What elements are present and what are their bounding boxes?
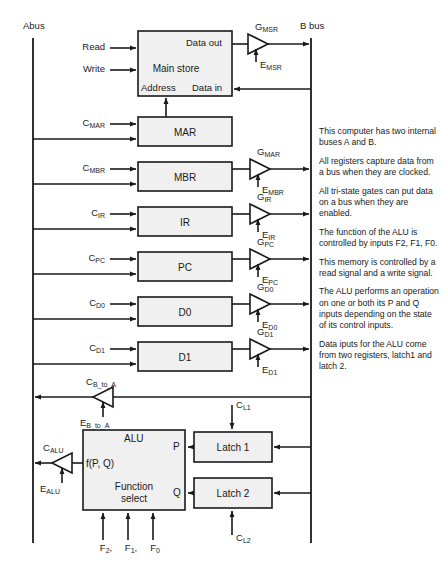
- note-item: The ALU performs an operation on one or …: [319, 286, 439, 331]
- alu-function-input-f1: F1,: [125, 543, 137, 553]
- main-store-write-label: Write: [83, 64, 105, 74]
- gate-ir-control-sub: IR: [264, 196, 271, 203]
- gate-pc: [250, 249, 270, 269]
- gate-alu-control-letter: C: [43, 442, 50, 453]
- gate-msr: [248, 34, 268, 54]
- clock-label-mbr: CMBR: [83, 163, 105, 173]
- f1-trail: ,: [135, 542, 138, 553]
- latch-2-clock-letter: C: [236, 532, 243, 543]
- alu-name-label: ALU: [124, 434, 143, 445]
- clock-label-mar: CMAR: [83, 118, 105, 128]
- gate-ir: [250, 204, 270, 224]
- gate-b-to-a-control-label: CB_to_A: [86, 377, 116, 387]
- gate-b-to-a-control-letter: C: [86, 376, 93, 387]
- main-store-read-label: Read: [82, 42, 105, 52]
- note-item: The function of the ALU is controlled by…: [319, 227, 439, 249]
- latch-1-clock-label: CL1: [236, 400, 251, 410]
- gate-b-to-a-enable-sub: B_to_A: [86, 422, 109, 429]
- gate-b-to-a-enable-label: EB_to_A: [80, 418, 109, 428]
- gate-mbr-control-sub: MAR: [264, 151, 280, 158]
- main-store-address-label: Address: [141, 83, 176, 93]
- note-item: This memory is controlled by a read sign…: [319, 257, 439, 279]
- gate-pc-control-sub: PC: [264, 241, 274, 248]
- clock-letter-mar: C: [83, 117, 90, 128]
- f2-trail: ,: [110, 542, 113, 553]
- gate-alu-enable-label: EALU: [40, 484, 60, 494]
- main-store-data-in-label: Data in: [192, 83, 222, 93]
- a-bus-label: Abus: [23, 21, 45, 31]
- gate-pc-control-label: GPC: [257, 237, 274, 247]
- f1-sub: 1: [131, 547, 135, 554]
- main-store-name: Main store: [153, 63, 200, 74]
- clock-letter-mbr: C: [83, 162, 90, 173]
- clock-sub-ir: IR: [98, 212, 105, 219]
- gate-d1-enable-sub: D1: [268, 369, 277, 376]
- gate-d0-control-label: GD0: [257, 282, 273, 292]
- latch-2-label: Latch 2: [217, 488, 250, 499]
- f1-letter: F: [125, 542, 131, 553]
- f2-letter: F: [100, 542, 106, 553]
- diagram-canvas: Abus B bus Main store Data out Data in A…: [0, 0, 443, 565]
- gate-b-to-a-control-sub: B_to_A: [93, 381, 116, 388]
- f0-sub: 0: [156, 547, 160, 554]
- note-item: All tri-state gates can put data on a bu…: [319, 186, 439, 220]
- note-item: Data iputs for the ALU come from two reg…: [319, 339, 439, 373]
- f0-letter: F: [150, 542, 156, 553]
- f2-sub: 2: [106, 547, 110, 554]
- latch-1-label: Latch 1: [217, 442, 250, 453]
- register-label-mbr: MBR: [174, 172, 196, 183]
- gate-d0-control-sub: D0: [264, 286, 273, 293]
- register-label-d1: D1: [179, 352, 192, 363]
- clock-letter-d1: C: [89, 342, 96, 353]
- clock-label-pc: CPC: [88, 253, 105, 263]
- gate-d1-control-label: GD1: [257, 327, 273, 337]
- alu-function-select-line1: Function: [115, 482, 153, 493]
- alu-output-expression: f(P, Q): [86, 459, 114, 470]
- gate-mbr: [250, 159, 270, 179]
- gate-alu-enable-sub: ALU: [46, 488, 60, 495]
- clock-letter-ir: C: [91, 207, 98, 218]
- gate-msr-enable-sub: MSR: [266, 64, 282, 71]
- main-store-data-out-label: Data out: [186, 38, 222, 48]
- gate-mbr-control-label: GMAR: [257, 147, 280, 157]
- alu-input-q-label: Q: [173, 488, 181, 499]
- b-bus-label: B bus: [300, 21, 324, 31]
- clock-sub-d0: D0: [96, 302, 105, 309]
- latch-2-clock-sub: L2: [243, 537, 251, 544]
- alu-input-p-label: P: [173, 442, 180, 453]
- gate-alu-control-label: CALU: [43, 443, 64, 453]
- latch-1-clock-sub: L1: [243, 404, 251, 411]
- note-item: This computer has two internal buses A a…: [319, 126, 439, 148]
- clock-letter-pc: C: [88, 252, 95, 263]
- gate-d0: [250, 294, 270, 314]
- register-label-ir: IR: [180, 217, 190, 228]
- notes-panel: This computer has two internal buses A a…: [319, 126, 439, 372]
- clock-sub-pc: PC: [95, 257, 105, 264]
- latch-2-clock-label: CL2: [236, 533, 251, 543]
- gate-d1: [250, 339, 270, 359]
- clock-label-ir: CIR: [91, 208, 105, 218]
- alu-function-input-f0: F0: [150, 543, 160, 553]
- gate-msr-enable-label: EMSR: [260, 60, 282, 70]
- clock-sub-mbr: MBR: [89, 167, 105, 174]
- gate-d1-control-sub: D1: [264, 331, 273, 338]
- register-label-pc: PC: [178, 262, 192, 273]
- gate-d1-enable-label: ED1: [262, 365, 277, 375]
- register-label-d0: D0: [179, 307, 192, 318]
- clock-label-d0: CD0: [89, 298, 105, 308]
- latch-1-clock-letter: C: [236, 399, 243, 410]
- clock-letter-d0: C: [89, 297, 96, 308]
- alu-function-select-line2: select: [121, 494, 147, 505]
- gate-msr-control-sub: MSR: [262, 26, 278, 33]
- gate-ir-control-label: GIR: [257, 192, 271, 202]
- gate-msr-control-label: GMSR: [255, 22, 278, 32]
- clock-label-d1: CD1: [89, 343, 105, 353]
- clock-sub-d1: D1: [96, 347, 105, 354]
- note-item: All registers capture data from a bus wh…: [319, 156, 439, 178]
- register-label-mar: MAR: [174, 127, 196, 138]
- alu-function-input-f2: F2,: [100, 543, 112, 553]
- gate-alu-control-sub: ALU: [50, 447, 64, 454]
- clock-sub-mar: MAR: [89, 122, 105, 129]
